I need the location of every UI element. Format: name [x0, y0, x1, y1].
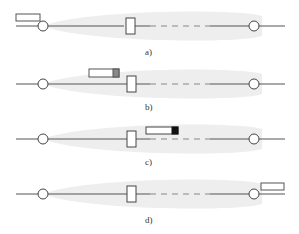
- left-node-circle: [38, 134, 48, 144]
- indicator-fill-grey: [113, 69, 119, 77]
- center-box: [127, 131, 136, 147]
- panel-b: b): [16, 69, 285, 112]
- panel-a: a): [16, 11, 285, 57]
- center-box: [127, 76, 136, 92]
- indicator-bar: [261, 183, 284, 190]
- right-node-circle: [249, 79, 259, 89]
- panel-c: c): [16, 124, 285, 167]
- left-node-circle: [38, 79, 48, 89]
- panel-d: d): [16, 179, 285, 225]
- panel-label: b): [145, 102, 153, 112]
- panel-label: d): [145, 215, 153, 225]
- right-node-circle: [249, 189, 259, 199]
- panel-label: c): [145, 157, 152, 167]
- right-node-circle: [249, 134, 259, 144]
- center-box: [126, 18, 135, 34]
- panel-label: a): [145, 47, 152, 57]
- center-box: [127, 186, 136, 202]
- left-node-circle: [38, 189, 48, 199]
- indicator-fill-black: [172, 127, 178, 134]
- diagram-canvas: a) b) c) d): [0, 0, 299, 234]
- left-node-circle: [38, 21, 48, 31]
- right-node-circle: [249, 21, 259, 31]
- indicator-bar: [16, 14, 40, 21]
